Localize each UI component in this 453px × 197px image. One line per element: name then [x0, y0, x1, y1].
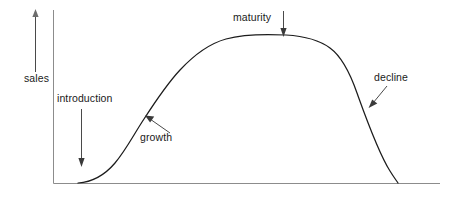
- decline-arrow-head-icon: [369, 99, 378, 108]
- stage-label-introduction: introduction: [57, 92, 112, 104]
- maturity-arrow-head-icon: [280, 28, 286, 37]
- stage-label-decline: decline: [374, 71, 408, 83]
- sales-curve: [78, 34, 398, 183]
- stage-label-growth: growth: [140, 131, 172, 143]
- stage-label-maturity: maturity: [233, 11, 271, 23]
- decline-arrow-shaft: [373, 86, 387, 103]
- introduction-arrow-head-icon: [78, 158, 84, 167]
- product-life-cycle-figure: sales introduction growth maturity decli…: [0, 0, 453, 197]
- sales-arrow-head-icon: [32, 9, 38, 17]
- y-axis-label-sales: sales: [24, 72, 49, 84]
